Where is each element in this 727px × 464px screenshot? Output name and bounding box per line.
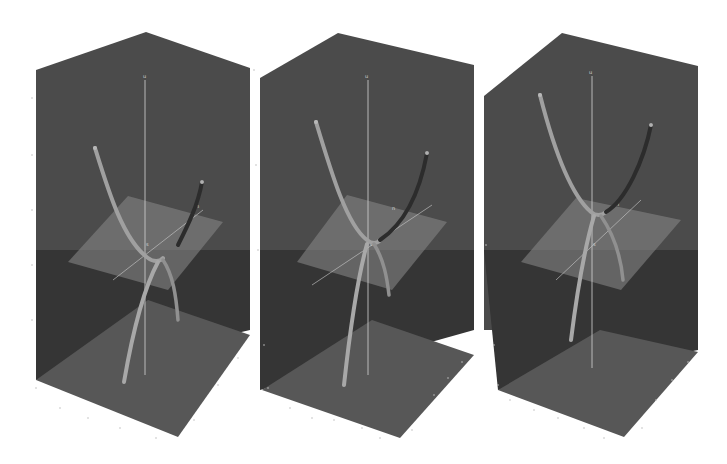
panel-left: u n s (28, 0, 270, 464)
tube-end-cap (538, 93, 542, 97)
3d-plot-right: u n s (476, 0, 718, 464)
tube-end-cap (314, 120, 318, 124)
3d-plot-middle: u n s (252, 0, 494, 464)
axis-label-top: u (365, 73, 368, 79)
tube-end-cap (425, 151, 429, 155)
axis-label-top: u (143, 73, 146, 79)
panel-middle: u n s (252, 0, 494, 464)
axis-label-top: u (589, 69, 592, 75)
3d-plot-left: u n s (28, 0, 270, 464)
axis-label-center: s (146, 241, 149, 247)
tube-end-cap (93, 146, 97, 150)
axis-label-plane: n (392, 205, 395, 211)
panel-right: u n s (476, 0, 718, 464)
tube-end-cap (200, 180, 204, 184)
tube-end-cap (649, 123, 653, 127)
axis-label-center: s (593, 241, 596, 247)
